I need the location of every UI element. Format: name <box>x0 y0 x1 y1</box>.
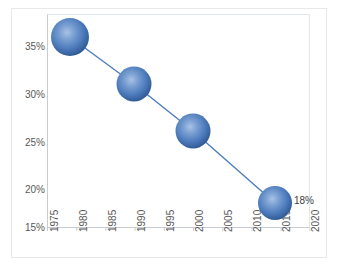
x-axis-tick-label: 1990 <box>137 210 147 232</box>
x-axis-tick-label: 1995 <box>166 210 176 232</box>
y-axis-tick-label: 25% <box>3 138 45 148</box>
y-axis-tick-label: 15% <box>3 223 45 233</box>
y-axis-tick-label: 20% <box>3 185 45 195</box>
plot-area <box>47 14 310 228</box>
x-axis-tick-label: 2015 <box>282 210 292 232</box>
x-axis-tick-label: 2005 <box>224 210 234 232</box>
x-axis-tick-label: 1975 <box>50 210 60 232</box>
data-label-18-percent: 18% <box>294 196 314 206</box>
y-axis-tick-label: 30% <box>3 90 45 100</box>
x-axis-tick-label: 2000 <box>195 210 205 232</box>
y-axis-tick-labels: 35% 30% 25% 20% 15% <box>0 0 45 277</box>
x-axis-tick-label: 2010 <box>253 210 263 232</box>
y-axis-tick-label: 35% <box>3 42 45 52</box>
chart-container: 35% 30% 25% 20% 15% 1975 1980 1985 1990 … <box>0 0 338 277</box>
x-axis-tick-label: 1980 <box>79 210 89 232</box>
x-axis-tick-label: 1985 <box>108 210 118 232</box>
x-axis-tick-label: 2020 <box>311 210 321 232</box>
